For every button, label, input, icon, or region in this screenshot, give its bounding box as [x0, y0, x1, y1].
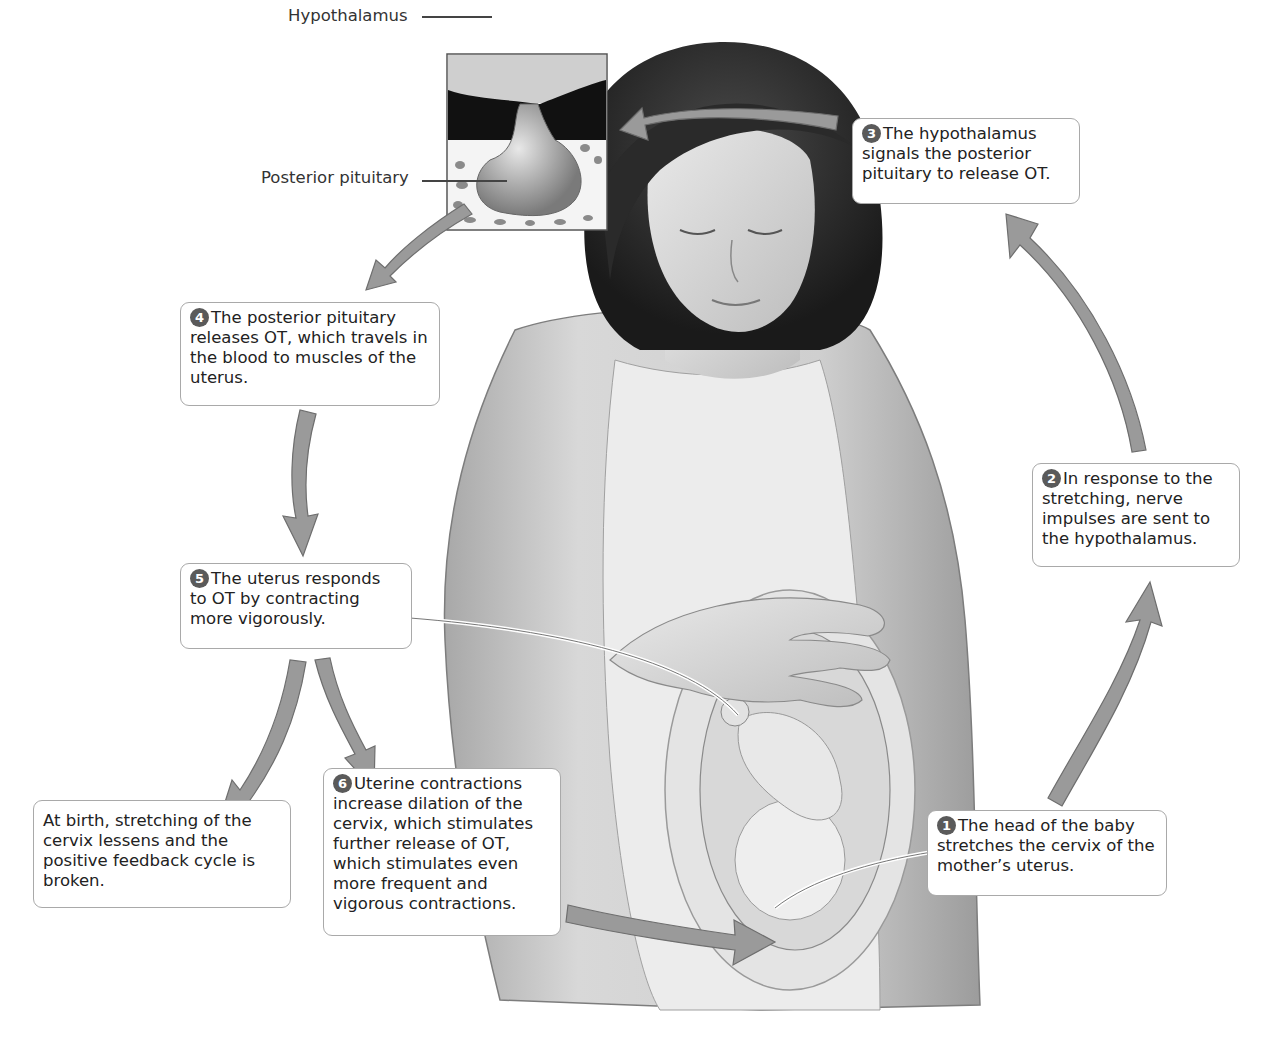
- step-6-box: 6Uterine contractions increase dilation …: [323, 768, 561, 936]
- step-3-box: 3The hypothalamus signals the posterior …: [852, 118, 1080, 204]
- step-3-badge: 3: [862, 124, 881, 143]
- step-2-text: In response to the stretching, nerve imp…: [1042, 469, 1213, 548]
- step-3-text: The hypothalamus signals the posterior p…: [862, 124, 1051, 183]
- pituitary-inset: [447, 54, 607, 230]
- step-5-box: 5The uterus responds to OT by contractin…: [180, 563, 412, 649]
- posterior-pituitary-label: Posterior pituitary: [261, 168, 409, 187]
- cycle-broken-text: At birth, stretching of the cervix lesse…: [43, 811, 255, 890]
- step-1-badge: 1: [937, 816, 956, 835]
- step-1-text: The head of the baby stretches the cervi…: [937, 816, 1155, 875]
- posterior-pituitary-leader-line: [422, 180, 507, 182]
- step-2-badge: 2: [1042, 469, 1061, 488]
- step-5-badge: 5: [190, 569, 209, 588]
- cycle-broken-note: At birth, stretching of the cervix lesse…: [33, 800, 291, 908]
- step-4-text: The posterior pituitary releases OT, whi…: [190, 308, 428, 387]
- hypothalamus-leader-line: [422, 16, 492, 18]
- step-6-text: Uterine contractions increase dilation o…: [333, 774, 533, 913]
- step-4-badge: 4: [190, 308, 209, 327]
- hypothalamus-label: Hypothalamus: [288, 6, 408, 25]
- step-2-box: 2In response to the stretching, nerve im…: [1032, 463, 1240, 567]
- step-5-text: The uterus responds to OT by contracting…: [190, 569, 380, 628]
- step-4-box: 4The posterior pituitary releases OT, wh…: [180, 302, 440, 406]
- step-1-box: 1The head of the baby stretches the cerv…: [927, 810, 1167, 896]
- step-6-badge: 6: [333, 774, 352, 793]
